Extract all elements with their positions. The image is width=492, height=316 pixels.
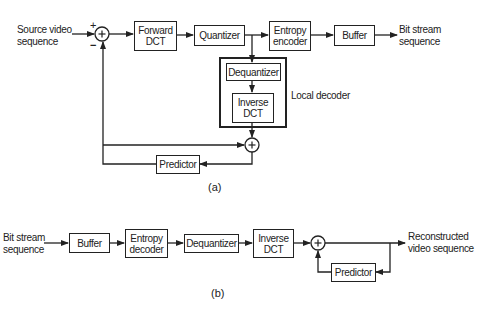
decoder-bitstream-label-line1: Bit stream <box>3 232 45 243</box>
bitstream-output-label-line2: sequence <box>399 36 440 47</box>
inverse-dct-label-line2: DCT <box>243 108 263 119</box>
buffer-label: Buffer <box>342 30 367 41</box>
reconstructed-output-label-line2: video sequence <box>408 243 474 254</box>
entropy-encoder-label-line1: Entropy <box>274 25 306 36</box>
predictor-label: Predictor <box>159 159 196 170</box>
decoder-buffer-block: Buffer <box>69 233 110 253</box>
entropy-encoder-block: Entropy encoder <box>269 21 311 51</box>
decoder-dequantizer-label: Dequantizer <box>186 238 237 249</box>
source-video-label-line1: Source video <box>17 24 72 35</box>
decoder-inverse-dct-label-line1: Inverse <box>258 233 289 244</box>
decoder-dequantizer-block: Dequantizer <box>184 234 239 253</box>
entropy-decoder-label-line1: Entropy <box>130 233 162 244</box>
forward-dct-label-line1: Forward <box>138 25 173 36</box>
connector-lines <box>0 0 492 316</box>
reconstructed-output-label-line1: Reconstructed <box>408 231 469 242</box>
entropy-decoder-label-line2: decoder <box>129 244 163 255</box>
plus-sign: + <box>90 20 96 31</box>
bitstream-output-label-line1: Bit stream <box>399 24 441 35</box>
dequantizer-label: Dequantizer <box>228 67 279 78</box>
inverse-dct-block: Inverse DCT <box>232 93 274 123</box>
local-decoder-label: Local decoder <box>291 90 350 101</box>
dequantizer-block: Dequantizer <box>226 63 281 81</box>
minus-sign: − <box>90 40 96 51</box>
caption-a: (a) <box>208 181 221 193</box>
caption-b: (b) <box>211 287 224 299</box>
decoder-buffer-label: Buffer <box>77 238 102 249</box>
decoder-predictor-block: Predictor <box>331 263 376 282</box>
entropy-encoder-label-line2: encoder <box>273 36 307 47</box>
source-video-label-line2: sequence <box>17 36 58 47</box>
buffer-block: Buffer <box>334 25 375 46</box>
decoder-inverse-dct-label-line2: DCT <box>264 244 284 255</box>
forward-dct-label-line2: DCT <box>146 36 166 47</box>
inverse-dct-label-line1: Inverse <box>238 97 269 108</box>
entropy-decoder-block: Entropy decoder <box>125 229 168 258</box>
quantizer-label: Quantizer <box>199 30 240 41</box>
predictor-block: Predictor <box>156 155 200 174</box>
decoder-inverse-dct-block: Inverse DCT <box>253 229 294 258</box>
forward-dct-block: Forward DCT <box>134 21 177 51</box>
quantizer-block: Quantizer <box>194 25 245 46</box>
decoder-bitstream-label-line2: sequence <box>3 244 44 255</box>
decoder-predictor-label: Predictor <box>335 267 372 278</box>
